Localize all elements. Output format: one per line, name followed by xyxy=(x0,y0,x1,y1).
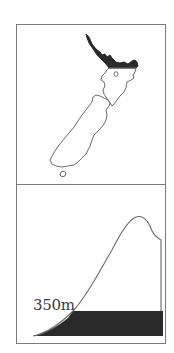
lake-taupo xyxy=(114,72,118,77)
stewart-island-outline xyxy=(60,171,66,177)
shaded-northland-region xyxy=(86,34,138,68)
new-zealand-map xyxy=(0,0,174,353)
altitude-label: 350m xyxy=(33,296,75,314)
elevation-profile xyxy=(33,217,163,336)
profile-shaded-band xyxy=(33,311,163,336)
south-island-outline xyxy=(50,95,110,167)
north-island-outline xyxy=(101,68,136,106)
